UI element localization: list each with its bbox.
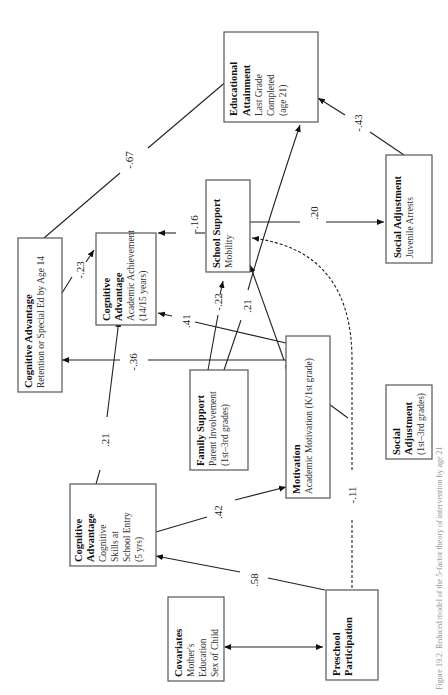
- svg-text:Sex of Child: Sex of Child: [210, 629, 220, 677]
- svg-text:Academic Achievement: Academic Achievement: [126, 230, 136, 321]
- svg-text:Motivation: Motivation: [291, 444, 302, 494]
- node-motivation: Motivation Academic Motivation (K/1st gr…: [286, 336, 330, 498]
- coef-retention-attainment: -.67: [123, 151, 135, 169]
- node-social-adjustment-arrests: Social Adjustment Juvenile Arrests: [386, 155, 432, 263]
- svg-text:Covariates: Covariates: [173, 629, 184, 677]
- coef-arrests-attainment: -.43: [352, 114, 364, 132]
- path-entry-to-achievement: [96, 470, 100, 484]
- svg-text:Retention or Special Ed by Age: Retention or Special Ed by Age 14: [36, 256, 46, 388]
- node-social-adjustment-grades: Social Adjustment (1st–3rd grades): [386, 385, 432, 459]
- svg-text:Mother's: Mother's: [186, 643, 196, 677]
- node-covariates: Covariates Mother's Education Sex of Chi…: [168, 597, 224, 681]
- coef-entry-achievement: .21: [99, 433, 111, 447]
- coef-family-mobility: -.22: [212, 293, 224, 310]
- path-retention-to-attainment: [44, 173, 120, 238]
- svg-text:Educational: Educational: [228, 62, 239, 116]
- svg-text:Academic Motivation (K/1st gra: Academic Motivation (K/1st grade): [304, 358, 315, 494]
- path-entry-to-motivation: [156, 517, 207, 532]
- node-educational-attainment: Educational Attainment Last Grade Comple…: [224, 32, 318, 122]
- coef-mobility-achievement: -.16: [188, 215, 200, 233]
- svg-text:Last Grade: Last Grade: [254, 74, 264, 116]
- path-family-to-attainment: [224, 320, 241, 370]
- svg-text:(1st–3rd grades): (1st–3rd grades): [416, 393, 427, 455]
- svg-text:Skills at: Skills at: [110, 531, 120, 562]
- path-arrests-to-attainment: [370, 132, 404, 155]
- coef-motivation-retention: -.36: [127, 353, 139, 371]
- svg-text:Preschool: Preschool: [331, 632, 342, 676]
- svg-text:Cognitive Advantage: Cognitive Advantage: [23, 294, 34, 388]
- coef-family-attainment: .21: [241, 299, 253, 313]
- svg-text:Social Adjustment: Social Adjustment: [392, 176, 403, 258]
- svg-text:Family Support: Family Support: [195, 395, 206, 466]
- svg-text:Cognitive: Cognitive: [73, 518, 84, 562]
- svg-text:Adjustment: Adjustment: [403, 401, 414, 455]
- svg-text:Advantage: Advantage: [85, 513, 96, 562]
- coef-preschool-mobility: -.11: [346, 486, 358, 503]
- coef-preschool-entry: .58: [248, 573, 260, 587]
- node-family-support: Family Support Parent Involvement (1st–3…: [190, 370, 248, 470]
- coef-motivation-achievement: .41: [180, 314, 192, 328]
- path-motivation-to-achievement: [195, 322, 286, 343]
- svg-text:Mobility: Mobility: [224, 234, 234, 268]
- svg-text:Participation: Participation: [343, 617, 354, 676]
- svg-text:Juvenile Arrests: Juvenile Arrests: [405, 197, 415, 258]
- svg-text:Parent Involvement: Parent Involvement: [208, 391, 218, 466]
- node-cognitive-achievement: Cognitive Advantage Academic Achievement…: [96, 230, 156, 325]
- svg-text:Advantage: Advantage: [113, 272, 124, 321]
- svg-text:Attainment: Attainment: [241, 64, 252, 116]
- svg-text:Completed: Completed: [266, 74, 276, 116]
- svg-text:Social: Social: [391, 428, 402, 455]
- svg-text:Education: Education: [198, 638, 208, 677]
- node-cognitive-retention: Cognitive Advantage Retention or Special…: [18, 238, 62, 392]
- svg-text:(5 yrs): (5 yrs): [134, 537, 145, 562]
- svg-text:School Support: School Support: [211, 198, 222, 268]
- svg-text:(1st–3rd grades): (1st–3rd grades): [220, 404, 231, 466]
- node-cognitive-entry: Cognitive Advantage Cognitive Skills at …: [70, 484, 156, 566]
- svg-text:School Entry: School Entry: [122, 512, 132, 562]
- path-retention-to-achievement: [62, 277, 72, 293]
- coef-mobility-arrests: .20: [308, 206, 320, 220]
- svg-text:(14/15 years): (14/15 years): [138, 271, 149, 321]
- path-diagram: -.67 -.43 -.23 -.16 .20 -.22 .21 .41 -.3…: [0, 0, 448, 695]
- path-preschool-to-entry: [268, 578, 325, 590]
- svg-text:Cognitive: Cognitive: [98, 525, 108, 562]
- coef-retention-achievement: -.23: [74, 261, 86, 279]
- path-family-to-mobility: [208, 315, 218, 370]
- node-school-support: School Support Mobility: [206, 180, 250, 272]
- svg-text:(age 21): (age 21): [278, 85, 289, 116]
- node-preschool: Preschool Participation: [326, 590, 378, 680]
- coef-entry-motivation: .42: [212, 505, 224, 519]
- svg-text:Cognitive: Cognitive: [101, 277, 112, 321]
- figure-caption: Figure 19.2. Reduced model of the 5-fact…: [435, 447, 444, 690]
